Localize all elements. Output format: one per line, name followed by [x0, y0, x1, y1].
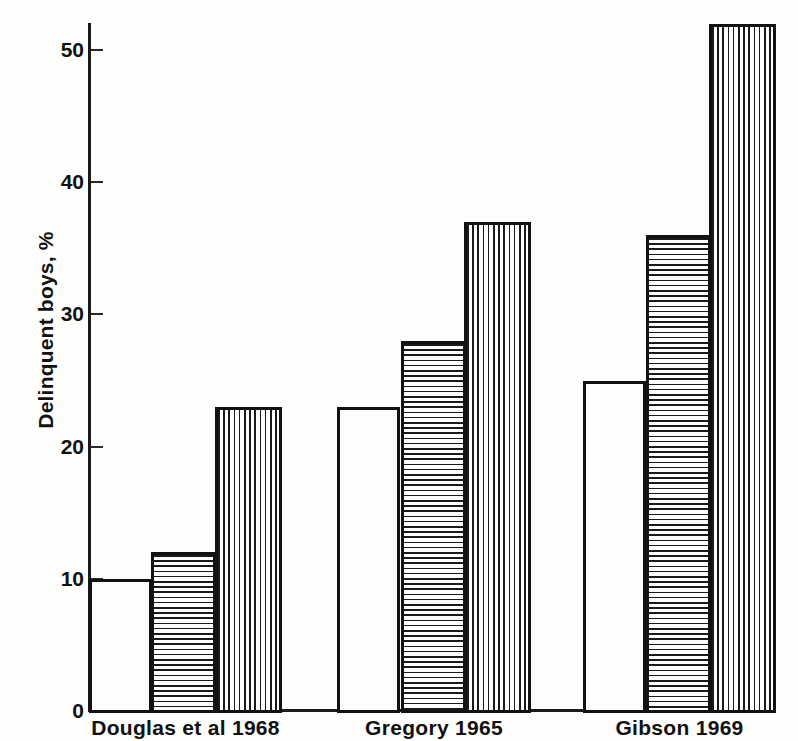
bar: [89, 579, 152, 713]
y-tick-label: 40: [42, 171, 84, 192]
y-tick-mark: [91, 181, 103, 183]
y-tick: 40: [0, 182, 84, 183]
bar: [401, 341, 466, 713]
y-tick-label: 50: [42, 39, 84, 60]
bar: [709, 24, 776, 713]
bar: [337, 407, 400, 713]
y-tick: 50: [0, 50, 84, 51]
y-tick: 30: [0, 314, 84, 315]
y-tick-mark: [91, 313, 103, 315]
y-tick-label: 10: [42, 568, 84, 589]
x-axis-group-label: Gibson 1969: [543, 716, 798, 740]
bar: [215, 407, 282, 713]
bar-chart-figure: Delinquent boys, % 50403020100 Douglas e…: [0, 0, 798, 741]
y-tick-label: 30: [42, 303, 84, 324]
x-axis-group-label: Douglas et al 1968: [49, 716, 322, 740]
y-tick-label: 20: [42, 436, 84, 457]
x-axis-group-label: Gregory 1965: [297, 716, 571, 740]
y-tick: 10: [0, 579, 84, 580]
bar: [646, 235, 711, 713]
y-tick: 0: [0, 711, 84, 712]
bar: [151, 552, 216, 713]
y-tick: 20: [0, 447, 84, 448]
y-tick-mark: [91, 49, 103, 51]
bar: [583, 381, 646, 714]
plot-area: 50403020100 Douglas et al 1968Gregory 19…: [0, 0, 798, 741]
bar: [464, 222, 531, 713]
y-tick-mark: [91, 446, 103, 448]
